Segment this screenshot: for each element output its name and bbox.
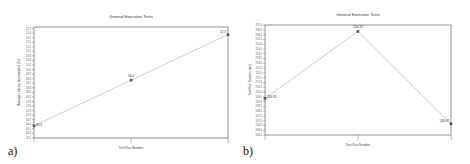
svg-text:3: 3 bbox=[450, 137, 452, 141]
svg-text:47.3: 47.3 bbox=[26, 109, 32, 113]
svg-text:255.0: 255.0 bbox=[256, 42, 263, 46]
svg-text:51.5: 51.5 bbox=[26, 45, 32, 49]
y-axis-label: Average Latency Improvement (%) bbox=[17, 59, 21, 105]
svg-text:45.5: 45.5 bbox=[26, 136, 32, 140]
data-point-label: 49.3 bbox=[128, 74, 134, 78]
svg-text:49.7: 49.7 bbox=[26, 72, 32, 76]
data-point-marker bbox=[264, 97, 267, 100]
svg-text:47.0: 47.0 bbox=[26, 113, 32, 117]
svg-text:49.4: 49.4 bbox=[26, 77, 32, 81]
svg-text:50.9: 50.9 bbox=[26, 54, 32, 58]
svg-text:248.5: 248.5 bbox=[256, 104, 263, 108]
chart-panel-b: General Execution Tests245.5246.0246.524… bbox=[235, 0, 470, 164]
data-point-label: 249.33 bbox=[267, 95, 277, 99]
svg-text:46.1: 46.1 bbox=[26, 127, 32, 131]
chart-panel-a: General Execution Tests45.545.846.146.44… bbox=[0, 0, 235, 164]
x-axis-ticks: 123 bbox=[33, 138, 229, 144]
svg-text:45.8: 45.8 bbox=[26, 131, 32, 135]
svg-text:48.8: 48.8 bbox=[26, 86, 32, 90]
svg-text:47.6: 47.6 bbox=[26, 104, 32, 108]
chart-title: General Execution Tests bbox=[109, 14, 152, 19]
svg-text:249.0: 249.0 bbox=[256, 100, 263, 104]
svg-text:50.3: 50.3 bbox=[26, 63, 32, 67]
svg-text:51.2: 51.2 bbox=[26, 49, 32, 53]
svg-text:254.0: 254.0 bbox=[256, 52, 263, 56]
data-point-label: 46.3 bbox=[36, 123, 42, 127]
svg-text:1: 1 bbox=[264, 137, 266, 141]
svg-text:2: 2 bbox=[357, 137, 359, 141]
svg-text:248.0: 248.0 bbox=[256, 109, 263, 113]
svg-text:250.5: 250.5 bbox=[256, 85, 263, 89]
svg-text:3: 3 bbox=[227, 140, 229, 144]
plot-area bbox=[265, 25, 451, 135]
data-point-label: 52.3 bbox=[220, 30, 226, 34]
data-point-marker bbox=[33, 125, 36, 128]
y-axis-ticks: 45.545.846.146.446.747.047.347.647.948.2… bbox=[26, 27, 34, 140]
svg-text:47.9: 47.9 bbox=[26, 100, 32, 104]
svg-text:257.0: 257.0 bbox=[256, 23, 263, 27]
svg-text:52.1: 52.1 bbox=[26, 36, 32, 40]
plot-area bbox=[34, 27, 228, 138]
svg-text:249.5: 249.5 bbox=[256, 95, 263, 99]
svg-text:247.0: 247.0 bbox=[256, 119, 263, 123]
svg-text:48.2: 48.2 bbox=[26, 95, 32, 99]
svg-text:252.0: 252.0 bbox=[256, 71, 263, 75]
svg-text:256.5: 256.5 bbox=[256, 28, 263, 32]
line-chart-b: General Execution Tests245.5246.0246.524… bbox=[235, 0, 470, 164]
svg-text:2: 2 bbox=[130, 140, 132, 144]
svg-text:253.0: 253.0 bbox=[256, 61, 263, 65]
line-chart-a: General Execution Tests45.545.846.146.44… bbox=[0, 0, 235, 164]
svg-text:46.7: 46.7 bbox=[26, 118, 32, 122]
chart-title: General Execution Tests bbox=[336, 12, 379, 17]
data-point-label: 246.67 bbox=[440, 119, 450, 123]
svg-text:252.5: 252.5 bbox=[256, 66, 263, 70]
data-point-marker bbox=[130, 79, 133, 82]
svg-text:253.5: 253.5 bbox=[256, 56, 263, 60]
svg-text:247.5: 247.5 bbox=[256, 114, 263, 118]
x-axis-label: Test Run Number bbox=[346, 143, 372, 147]
data-point-label: 256.33 bbox=[353, 25, 363, 29]
svg-text:1: 1 bbox=[33, 140, 35, 144]
svg-text:245.5: 245.5 bbox=[256, 133, 263, 137]
svg-text:246.5: 246.5 bbox=[256, 123, 263, 127]
panel-label-a: a) bbox=[8, 144, 17, 159]
svg-text:251.5: 251.5 bbox=[256, 76, 263, 80]
x-axis-ticks: 123 bbox=[264, 135, 452, 141]
svg-text:52.7: 52.7 bbox=[26, 27, 32, 31]
svg-text:50.0: 50.0 bbox=[26, 68, 32, 72]
svg-text:254.5: 254.5 bbox=[256, 47, 263, 51]
svg-text:50.6: 50.6 bbox=[26, 58, 32, 62]
panel-label-b: b) bbox=[243, 144, 253, 159]
svg-text:46.4: 46.4 bbox=[26, 122, 32, 126]
data-point-marker bbox=[357, 30, 360, 33]
svg-text:49.1: 49.1 bbox=[26, 81, 32, 85]
data-point-marker bbox=[450, 123, 453, 126]
svg-text:52.4: 52.4 bbox=[26, 31, 32, 35]
svg-text:256.0: 256.0 bbox=[256, 33, 263, 37]
y-axis-ticks: 245.5246.0246.5247.0247.5248.0248.5249.0… bbox=[256, 23, 266, 137]
svg-text:51.8: 51.8 bbox=[26, 40, 32, 44]
data-point-marker bbox=[227, 33, 230, 36]
svg-text:246.0: 246.0 bbox=[256, 128, 263, 132]
y-axis-label: Total Run Duration (ms) bbox=[248, 64, 252, 96]
svg-text:251.0: 251.0 bbox=[256, 80, 263, 84]
svg-text:48.5: 48.5 bbox=[26, 90, 32, 94]
svg-text:250.0: 250.0 bbox=[256, 90, 263, 94]
x-axis-label: Test Run Number bbox=[119, 146, 145, 150]
svg-text:255.5: 255.5 bbox=[256, 37, 263, 41]
